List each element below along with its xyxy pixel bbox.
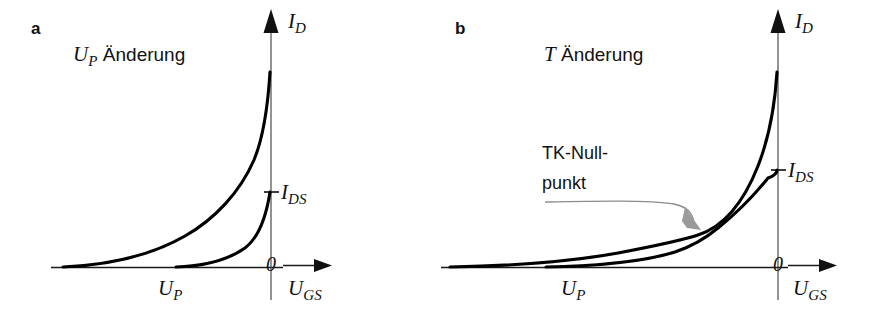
panel-b-curve-2: [546, 170, 777, 267]
panel-a: a UP Änderung ID IDS: [0, 0, 438, 327]
panel-b-y-axis-arrowhead: [771, 9, 786, 33]
panel-b: b T Änderung TK-Null- punkt ID: [438, 0, 876, 327]
panel-b-callout-arrow-shaft: [545, 201, 694, 222]
panel-b-up-label-sub: P: [576, 287, 585, 303]
panel-a-idss-label-sub: DS: [288, 191, 307, 207]
panel-a-idss-label-var: I: [281, 180, 288, 204]
panel-a-up-label-sub: P: [173, 287, 182, 303]
panel-a-x-axis-label-sub: GS: [303, 287, 322, 303]
panel-a-up-label-var: U: [158, 276, 173, 300]
panel-b-origin-label: 0: [773, 254, 783, 274]
panel-b-x-axis-label: UGS: [793, 278, 827, 303]
panel-a-y-axis-label-sub: D: [295, 20, 306, 36]
panel-a-y-axis-label: ID: [288, 11, 306, 36]
panel-b-y-axis-label-sub: D: [802, 20, 813, 36]
panel-a-origin-label: 0: [266, 254, 276, 274]
panel-a-idss-label: IDS: [281, 182, 307, 207]
panel-a-curve-1: [63, 72, 270, 267]
panel-b-curve-1: [450, 72, 777, 267]
panel-b-up-label-var: U: [561, 276, 576, 300]
panel-a-plot: [0, 0, 438, 327]
panel-b-x-axis-arrowhead: [819, 259, 837, 272]
panel-b-idss-label-var: I: [788, 158, 795, 182]
panel-a-up-label: UP: [158, 278, 183, 303]
panel-a-x-axis-arrowhead: [314, 259, 332, 272]
panel-a-y-axis-arrowhead: [264, 9, 279, 33]
panel-a-x-axis-label: UGS: [288, 278, 322, 303]
panel-b-x-axis-label-var: U: [793, 276, 808, 300]
panel-a-x-axis-label-var: U: [288, 276, 303, 300]
figure-jfet-transfer-characteristics: a UP Änderung ID IDS: [0, 0, 876, 327]
panel-b-y-axis-label-var: I: [795, 9, 802, 33]
panel-b-up-label: UP: [561, 278, 586, 303]
panel-a-y-axis-label-var: I: [288, 9, 295, 33]
panel-b-x-axis-label-sub: GS: [808, 287, 827, 303]
panel-a-curve-2: [176, 192, 270, 267]
panel-b-y-axis-label: ID: [795, 11, 813, 36]
panel-b-callout-arrowhead: [682, 207, 701, 230]
panel-b-idss-label-sub: DS: [795, 169, 814, 185]
panel-b-idss-label: IDS: [788, 160, 814, 185]
